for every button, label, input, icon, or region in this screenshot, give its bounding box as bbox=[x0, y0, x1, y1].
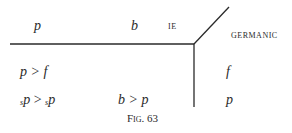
row2-germanic: p bbox=[226, 93, 233, 107]
germanic-label: GERMANIC bbox=[231, 32, 278, 40]
branch-diagonal-line bbox=[194, 7, 229, 44]
ie-label: IE bbox=[168, 23, 177, 31]
row1-germanic: f bbox=[226, 65, 230, 79]
row2-ie-change: sp > sp bbox=[20, 93, 55, 107]
row1-ie-change: p > f bbox=[20, 65, 47, 79]
row2-b-change: b > p bbox=[118, 93, 148, 107]
header-p: p bbox=[34, 19, 41, 33]
header-b: b bbox=[131, 19, 138, 33]
figure-caption: Fig. 63 bbox=[127, 113, 158, 124]
